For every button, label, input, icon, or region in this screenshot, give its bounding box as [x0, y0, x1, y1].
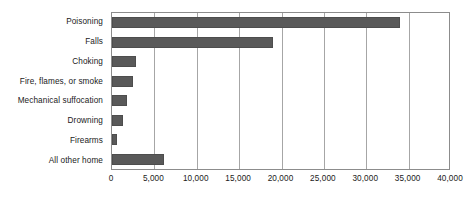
category-label-row: Choking [0, 52, 107, 72]
plot-area [111, 12, 450, 170]
category-label-row: Falls [0, 32, 107, 52]
category-label: Drowning [68, 116, 103, 125]
bar [112, 56, 136, 67]
x-tick-label: 40,000 [437, 174, 463, 183]
bar-row [112, 13, 449, 33]
bar [112, 95, 127, 106]
bar-row [112, 52, 449, 72]
category-label: Firearms [70, 136, 103, 145]
bar-row [112, 111, 449, 131]
bar [112, 17, 400, 28]
category-axis: PoisoningFallsChokingFire, flames, or sm… [0, 12, 107, 170]
x-tick-label: 0 [109, 174, 114, 183]
bar-row [112, 91, 449, 111]
category-label: Fire, flames, or smoke [20, 77, 103, 86]
category-label: Choking [72, 57, 103, 66]
x-tick-label: 10,000 [183, 174, 209, 183]
bar-row [112, 130, 449, 150]
category-label-row: Poisoning [0, 12, 107, 32]
category-label: All other home [49, 156, 103, 165]
category-label-row: All other home [0, 150, 107, 170]
bar [112, 134, 117, 145]
x-tick-label: 25,000 [310, 174, 336, 183]
bar [112, 76, 133, 87]
category-label-row: Mechanical suffocation [0, 91, 107, 111]
bar [112, 154, 164, 165]
bar-row [112, 72, 449, 92]
bar [112, 115, 123, 126]
bar-chart: PoisoningFallsChokingFire, flames, or sm… [0, 0, 471, 198]
x-tick-label: 20,000 [268, 174, 294, 183]
category-label-row: Drowning [0, 111, 107, 131]
value-axis: 05,00010,00015,00020,00025,00030,00035,0… [111, 171, 451, 191]
category-label: Falls [85, 37, 103, 46]
x-tick-label: 5,000 [143, 174, 164, 183]
x-tick-label: 15,000 [225, 174, 251, 183]
x-tick-label: 35,000 [395, 174, 421, 183]
x-tick-label: 30,000 [352, 174, 378, 183]
category-label: Mechanical suffocation [18, 96, 103, 105]
bars-layer [112, 13, 449, 169]
bar-row [112, 33, 449, 53]
bar-row [112, 150, 449, 170]
category-label-row: Fire, flames, or smoke [0, 71, 107, 91]
category-label: Poisoning [66, 17, 103, 26]
bar [112, 37, 273, 48]
category-label-row: Firearms [0, 131, 107, 151]
